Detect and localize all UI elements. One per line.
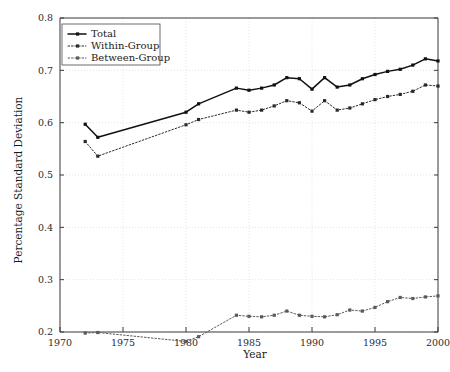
- y-tick-label: 0.3: [38, 274, 53, 285]
- data-point: [298, 314, 301, 317]
- data-point: [436, 59, 439, 62]
- chart-figure: 0.20.30.40.50.60.70.8 197019751980198519…: [0, 0, 450, 372]
- data-point: [310, 315, 313, 318]
- data-point: [273, 104, 276, 107]
- data-point: [260, 109, 263, 112]
- x-axis-ticks: 1970197519801985199019952000: [48, 327, 450, 348]
- data-point: [84, 140, 87, 143]
- data-point: [273, 314, 276, 317]
- data-point: [399, 296, 402, 299]
- data-point: [373, 306, 376, 309]
- data-point: [323, 315, 326, 318]
- data-point: [348, 308, 351, 311]
- data-point: [298, 77, 301, 80]
- y-tick-label: 0.5: [38, 169, 53, 180]
- x-tick-label: 2000: [426, 337, 450, 348]
- data-point: [310, 88, 313, 91]
- series-line: [85, 85, 438, 156]
- legend-label: Between-Group: [91, 52, 170, 63]
- data-point: [373, 98, 376, 101]
- data-point: [197, 102, 200, 105]
- data-point: [361, 102, 364, 105]
- data-point: [235, 87, 238, 90]
- data-point: [260, 87, 263, 90]
- x-axis-title: Year: [242, 348, 267, 360]
- data-point: [323, 76, 326, 79]
- data-point: [411, 64, 414, 67]
- series-line: [85, 296, 438, 342]
- data-point: [424, 57, 427, 60]
- data-point: [411, 297, 414, 300]
- data-point: [373, 73, 376, 76]
- line-chart: 0.20.30.40.50.60.70.8 197019751980198519…: [0, 0, 450, 372]
- series-within-group: [84, 83, 440, 157]
- legend-label: Total: [91, 28, 116, 39]
- data-point: [184, 340, 187, 343]
- legend-marker: [76, 56, 79, 59]
- data-point: [96, 155, 99, 158]
- data-point: [336, 109, 339, 112]
- series-between-group: [84, 294, 440, 343]
- data-point: [247, 89, 250, 92]
- data-point: [386, 95, 389, 98]
- data-point: [273, 83, 276, 86]
- data-point: [96, 136, 99, 139]
- data-point: [285, 99, 288, 102]
- data-point: [247, 111, 250, 114]
- y-tick-label: 0.6: [38, 117, 53, 128]
- data-point: [361, 77, 364, 80]
- x-tick-label: 1985: [237, 337, 261, 348]
- data-point: [399, 93, 402, 96]
- data-point: [348, 106, 351, 109]
- data-point: [436, 84, 439, 87]
- data-point: [424, 83, 427, 86]
- data-point: [424, 295, 427, 298]
- data-point: [399, 68, 402, 71]
- chart-legend: TotalWithin-GroupBetween-Group: [62, 24, 170, 65]
- series-layer: [84, 57, 440, 343]
- y-tick-label: 0.8: [38, 12, 53, 23]
- data-point: [285, 309, 288, 312]
- data-point: [386, 70, 389, 73]
- legend-marker: [76, 32, 79, 35]
- legend-label: Within-Group: [91, 40, 159, 51]
- data-point: [386, 300, 389, 303]
- y-tick-label: 0.4: [38, 222, 53, 233]
- data-point: [310, 110, 313, 113]
- x-tick-label: 1975: [111, 337, 135, 348]
- data-point: [336, 313, 339, 316]
- data-point: [323, 99, 326, 102]
- data-point: [184, 111, 187, 114]
- data-point: [84, 123, 87, 126]
- x-tick-label: 1970: [48, 337, 72, 348]
- data-point: [184, 123, 187, 126]
- data-point: [260, 315, 263, 318]
- data-point: [361, 309, 364, 312]
- data-point: [411, 90, 414, 93]
- x-tick-label: 1995: [363, 337, 387, 348]
- data-point: [84, 331, 87, 334]
- data-point: [247, 315, 250, 318]
- data-point: [348, 83, 351, 86]
- data-point: [197, 335, 200, 338]
- data-point: [436, 294, 439, 297]
- data-point: [298, 101, 301, 104]
- data-point: [336, 85, 339, 88]
- data-point: [96, 331, 99, 334]
- data-point: [285, 76, 288, 79]
- x-tick-label: 1990: [300, 337, 324, 348]
- data-point: [235, 109, 238, 112]
- data-point: [235, 314, 238, 317]
- y-axis-title: Percentage Standard Deviation: [12, 96, 24, 263]
- y-tick-label: 0.7: [38, 65, 53, 76]
- legend-marker: [76, 44, 79, 47]
- data-point: [197, 118, 200, 121]
- y-tick-label: 0.2: [38, 326, 53, 337]
